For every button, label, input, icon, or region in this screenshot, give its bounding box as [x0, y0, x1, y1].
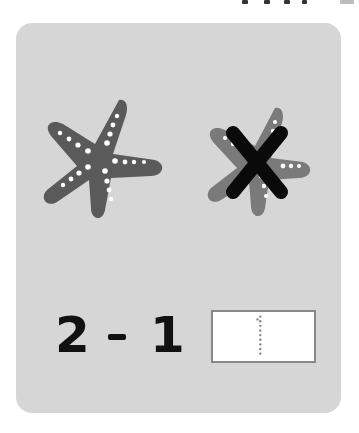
minuend: 2	[55, 305, 90, 365]
traceable-digit-one	[213, 312, 314, 361]
minus-sign	[108, 334, 126, 340]
crossed-starfish	[193, 88, 323, 218]
answer-box[interactable]	[211, 310, 316, 363]
worksheet-card: 2 1	[16, 23, 341, 413]
subtrahend: 1	[150, 305, 185, 365]
starfish-icon	[193, 88, 323, 218]
starfish-icon	[33, 88, 163, 218]
clipped-header-text	[240, 0, 359, 6]
subtraction-equation: 2 1	[16, 305, 341, 365]
